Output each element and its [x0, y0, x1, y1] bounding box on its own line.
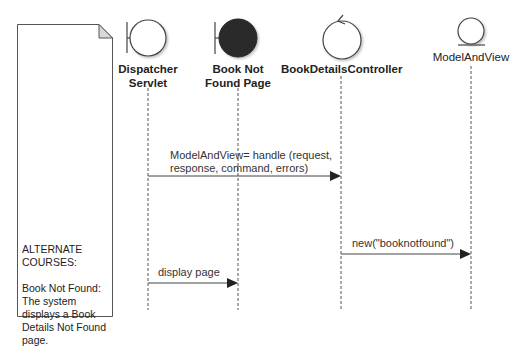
label-line: Book Not	[198, 62, 278, 76]
entity-icon-modelandview	[458, 18, 485, 45]
message-arrow-new	[341, 249, 471, 259]
message-label-display-page: display page	[158, 266, 220, 279]
message-label-new: new("booknotfound")	[352, 237, 454, 250]
message-line: ModelAndView= handle (request,	[170, 149, 332, 162]
message-line: new("booknotfound")	[352, 237, 454, 250]
label-line: Found Page	[198, 76, 278, 90]
label-line: ModelAndView	[421, 50, 521, 64]
boundary-icon-dispatcher	[127, 20, 166, 56]
lifeline-label-modelandview: ModelAndView	[421, 50, 521, 64]
message-line: display page	[158, 266, 220, 279]
label-line: Dispatcher	[108, 62, 188, 76]
boundary-icon-not-found-page	[215, 19, 257, 57]
message-label-handle: ModelAndView= handle (request, response,…	[170, 149, 332, 175]
lifeline-label-not-found-page: Book Not Found Page	[198, 62, 278, 90]
label-line: BookDetailsController	[281, 62, 401, 76]
lifeline-label-controller: BookDetailsController	[281, 62, 401, 76]
lifeline-label-dispatcher: Dispatcher Servlet	[108, 62, 188, 90]
control-icon-controller	[323, 15, 361, 59]
label-line: Servlet	[108, 76, 188, 90]
message-line: response, command, errors)	[170, 162, 332, 175]
message-arrow-display-page	[148, 278, 238, 288]
